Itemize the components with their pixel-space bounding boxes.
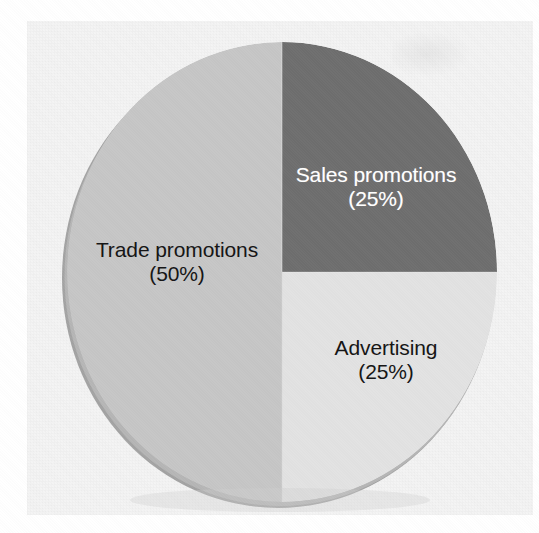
pie-slice-sales-promotions[interactable] <box>282 42 497 272</box>
pie-slice-trade-promotions[interactable] <box>67 42 282 502</box>
chart-page: Sales promotions (25%) Trade promotions … <box>0 0 539 533</box>
pie-chart: Sales promotions (25%) Trade promotions … <box>0 0 539 533</box>
pie-slice-advertising[interactable] <box>282 272 497 502</box>
pie-drop-shadow <box>130 488 430 512</box>
pie-chart-svg <box>0 0 539 533</box>
